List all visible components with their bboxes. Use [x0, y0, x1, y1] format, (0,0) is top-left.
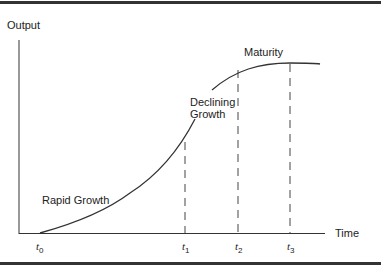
declining-line-2: Growth: [190, 108, 235, 120]
curve-maturity: [212, 63, 320, 90]
rapid-growth-label: Rapid Growth: [42, 194, 109, 206]
reference-lines: [185, 64, 290, 233]
curve-growth: [40, 119, 195, 233]
chart-canvas: [0, 0, 381, 271]
maturity-label: Maturity: [244, 46, 283, 58]
x-axis-label: Time: [335, 227, 359, 239]
declining-growth-label: Declining Growth: [190, 96, 235, 120]
tick-t0: t0: [36, 240, 44, 255]
tick-t1: t1: [182, 240, 190, 255]
tick-t3: t3: [287, 240, 295, 255]
y-axis-label: Output: [7, 19, 40, 31]
declining-line-1: Declining: [190, 96, 235, 108]
tick-t2: t2: [235, 240, 243, 255]
